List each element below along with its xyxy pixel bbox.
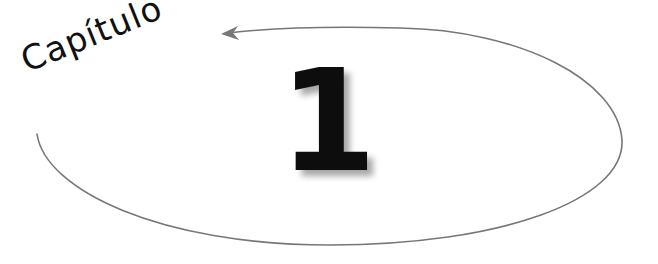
chapter-number: 1 bbox=[268, 52, 388, 192]
